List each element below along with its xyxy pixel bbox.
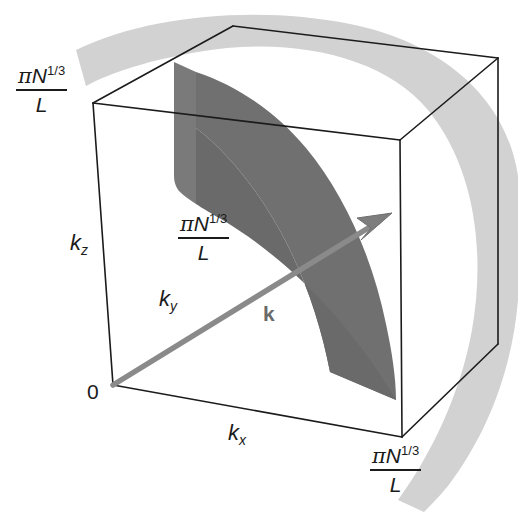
figure-container: πN1/3 L πN1/3 L πN1/3 L kz ky kx k 0 (0, 0, 518, 515)
axis-label-ky: ky (159, 288, 177, 313)
k-vector-arrowhead (357, 213, 392, 240)
fraction-bar-y (178, 237, 229, 239)
cube-edge-front-bottom (113, 385, 402, 437)
origin-label: 0 (87, 381, 99, 402)
axis-max-label-z: πN1/3 L (16, 64, 67, 115)
axis-label-kz: kz (70, 232, 88, 257)
axis-label-ky-sub: y (170, 298, 177, 314)
axis-label-kx: kx (228, 422, 246, 447)
axis-label-kx-base: k (228, 420, 239, 445)
axis-max-denominator-y: L (178, 240, 229, 263)
kspace-diagram-svg (0, 0, 518, 515)
axis-max-denominator-x: L (370, 472, 421, 495)
axis-label-ky-base: k (159, 286, 170, 311)
axis-max-label-x: πN1/3 L (370, 444, 421, 495)
axis-label-kz-base: k (70, 230, 81, 255)
fraction-bar-x (370, 469, 421, 471)
cube-edge-front-left (93, 103, 113, 385)
k-vector-label: k (263, 303, 275, 324)
axis-max-numerator-x: πN1/3 (370, 444, 421, 468)
axis-max-denominator-z: L (16, 92, 67, 115)
fraction-bar-z (16, 89, 67, 91)
axis-label-kz-sub: z (81, 242, 88, 258)
axis-max-numerator-z: πN1/3 (16, 64, 67, 88)
axis-max-numerator-y: πN1/3 (178, 212, 229, 236)
cube-edge-front-right (400, 140, 402, 437)
axis-label-kx-sub: x (239, 432, 246, 448)
axis-max-label-y: πN1/3 L (178, 212, 229, 263)
